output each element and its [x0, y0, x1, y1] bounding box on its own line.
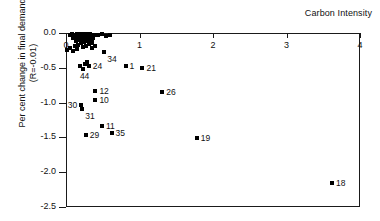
data-point [93, 98, 97, 102]
data-point [65, 48, 69, 52]
data-point-label: 34 [107, 54, 116, 64]
data-point [100, 32, 104, 36]
data-point [85, 60, 89, 64]
y-tick-mark [59, 207, 66, 208]
y-tick-mark [59, 103, 66, 104]
data-point-label: 31 [85, 111, 94, 121]
data-point-label: 30 [68, 100, 77, 110]
scatter-chart-figure: Carbon Intensity Per cent change in fina… [0, 0, 380, 221]
data-point-label: 19 [201, 133, 210, 143]
data-point [102, 50, 106, 54]
data-point [93, 44, 97, 48]
data-point [78, 64, 82, 68]
data-point [71, 49, 75, 53]
data-point [80, 107, 84, 111]
data-point-label: 35 [116, 128, 125, 138]
data-point [75, 47, 79, 51]
y-tick-label: -1.5 [0, 131, 56, 141]
data-point [330, 181, 334, 185]
y-tick-label: -0.5 [0, 62, 56, 72]
x-tick-label: 3 [277, 40, 297, 50]
y-tick-label: -2.0 [0, 166, 56, 176]
y-tick-label: -1.0 [0, 97, 56, 107]
y-tick-label: 0.0 [0, 27, 56, 37]
data-point [87, 64, 91, 68]
y-tick-mark [59, 33, 66, 34]
data-point-label: 18 [336, 178, 345, 188]
data-point-label: 1 [130, 61, 135, 71]
data-point-label: 29 [90, 130, 99, 140]
data-point [124, 64, 128, 68]
data-point [100, 124, 104, 128]
data-point [160, 90, 164, 94]
y-tick-mark [59, 137, 66, 138]
data-point [108, 33, 112, 37]
y-tick-label: -2.5 [0, 201, 56, 211]
data-point [110, 131, 114, 135]
x-tick-label: 2 [203, 40, 223, 50]
data-point-label: 44 [80, 71, 89, 81]
data-point [79, 103, 83, 107]
x-tick-mark [140, 33, 141, 38]
x-tick-label: 4 [350, 40, 370, 50]
data-point-label: 21 [146, 63, 155, 73]
x-tick-mark [287, 33, 288, 38]
data-point [84, 133, 88, 137]
data-point-label: 10 [99, 95, 108, 105]
y-tick-mark [59, 172, 66, 173]
data-point-label: 12 [99, 86, 108, 96]
data-point-label: 26 [166, 87, 175, 97]
x-tick-mark [360, 33, 361, 38]
chart-title: Carbon Intensity [305, 8, 372, 18]
x-tick-label: 1 [130, 40, 150, 50]
data-point [92, 33, 96, 37]
y-axis-title-line2: (R=-0.01) [28, 0, 39, 153]
y-tick-mark [59, 68, 66, 69]
x-tick-mark [213, 33, 214, 38]
data-point [93, 89, 97, 93]
data-point [195, 136, 199, 140]
data-point [140, 66, 144, 70]
y-axis-title: Per cent change in final demand (R=-0.01… [17, 0, 39, 153]
data-point-label: 24 [93, 61, 102, 71]
data-point-label: 11 [106, 121, 115, 131]
